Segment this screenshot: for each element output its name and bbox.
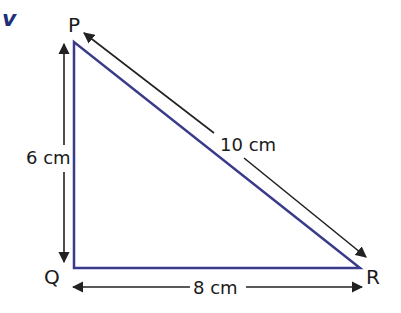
vertex-label-r: R <box>366 265 380 289</box>
side-label-pq: 6 cm <box>26 147 71 168</box>
side-label-qr: 8 cm <box>193 277 238 298</box>
pr-arrow-upper <box>84 33 214 133</box>
vertex-label-q: Q <box>44 265 60 289</box>
side-label-pr: 10 cm <box>220 134 276 155</box>
triangle-pqr <box>74 42 360 268</box>
pr-arrow-lower <box>244 158 366 257</box>
vertex-label-p: P <box>68 13 80 37</box>
question-marker: v <box>2 6 17 31</box>
triangle-diagram: v P Q R 6 cm 8 cm 10 cm <box>0 0 401 313</box>
